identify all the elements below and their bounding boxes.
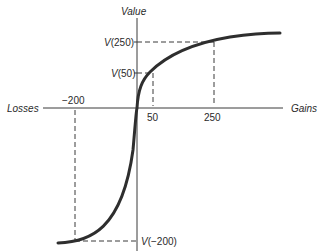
marker-v250: V(250): [104, 37, 134, 48]
x-axis-right-label: Gains: [291, 103, 317, 114]
y-axis-label: Value: [121, 6, 147, 17]
value-function-diagram: Value Losses Gains −200 50 250 V(250) V(…: [0, 0, 327, 251]
value-curve: [58, 33, 280, 243]
tick-label-neg200: −200: [62, 95, 85, 106]
marker-v50: V(50): [111, 68, 135, 79]
tick-label-250: 250: [204, 112, 221, 123]
guide-lines: [75, 42, 214, 241]
tick-label-50: 50: [147, 112, 159, 123]
marker-vneg200: V(−200): [141, 236, 177, 247]
x-axis-left-label: Losses: [7, 103, 39, 114]
